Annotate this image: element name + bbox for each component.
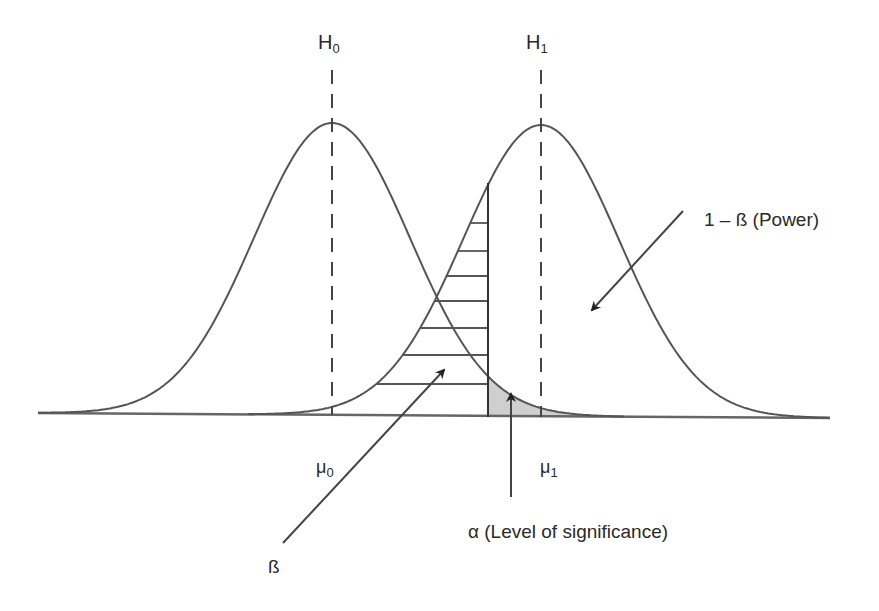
mu0-label: μ0 xyxy=(316,458,334,479)
beta-label: ß xyxy=(268,557,280,576)
power-arrow xyxy=(592,211,683,310)
beta-arrow xyxy=(283,370,444,543)
hypothesis-power-diagram xyxy=(0,0,879,611)
h1-label: H1 xyxy=(526,32,548,55)
power-label: 1 – ß (Power) xyxy=(704,210,819,229)
alpha-label: α (Level of significance) xyxy=(468,522,668,541)
h1-distribution-curve xyxy=(248,125,830,418)
x-axis-baseline xyxy=(38,413,830,418)
mu1-label: μ1 xyxy=(540,458,558,479)
h0-label: H0 xyxy=(318,32,340,55)
beta-hatch-region xyxy=(376,223,488,384)
